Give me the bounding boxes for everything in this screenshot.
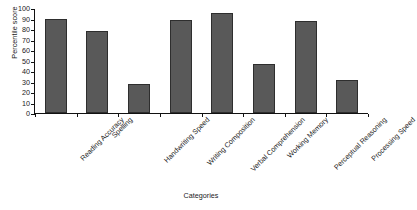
y-tick-label: 10 [22,100,30,107]
bar-slot [77,8,119,113]
bar-slot [326,8,368,113]
y-tick-mark [31,51,34,52]
y-tick-mark [31,30,34,31]
x-axis-title: Categories [34,191,368,200]
y-tick-mark [31,93,34,94]
y-tick-mark [31,62,34,63]
y-tick-mark [31,83,34,84]
y-tick-mark [31,20,34,21]
y-tick-label: 80 [22,26,30,33]
bar-slot [160,8,202,113]
y-tick-label: 60 [22,47,30,54]
bar [295,21,317,113]
x-category-label: Perceptual Reasoning [332,116,387,171]
y-tick-mark [31,104,34,105]
y-tick-label: 0 [26,110,30,117]
x-category-label: Writing Composition [205,116,255,166]
y-tick-label: 30 [22,79,30,86]
x-category-label: Handwriting Speed [163,116,211,164]
y-tick-label: 100 [18,5,30,12]
bar-slot [202,8,244,113]
bar [336,80,358,113]
y-tick-label: 90 [22,16,30,23]
bar-slot [285,8,327,113]
bar-slot [118,8,160,113]
y-tick-mark [31,9,34,10]
bar [86,31,108,113]
y-tick-mark [31,72,34,73]
bar-slot [243,8,285,113]
x-category-label: Reading Accuracy [79,116,125,162]
y-tick-label: 20 [22,89,30,96]
bar [128,84,150,113]
bar [45,19,67,114]
x-tick-mark [368,114,369,117]
bar-slot [35,8,77,113]
y-tick-mark [31,114,34,115]
bars-layer [35,8,368,113]
bar [253,64,275,113]
plot-area: 0102030405060708090100 [34,9,368,114]
y-tick-label: 40 [22,68,30,75]
bar [170,20,192,113]
bar [211,13,233,113]
y-tick-label: 70 [22,37,30,44]
x-axis-category-labels: Reading AccuracySpellingHandwriting Spee… [34,116,368,188]
y-tick-mark [31,41,34,42]
y-tick-label: 50 [22,58,30,65]
